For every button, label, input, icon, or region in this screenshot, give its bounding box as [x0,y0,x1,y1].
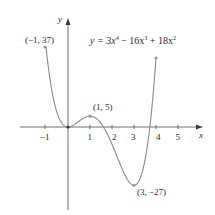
function-graph: y x −1 1 2 3 4 5 (−1, 37) (1, 5) (3, −27… [0,0,215,215]
tick-label-5: 5 [176,132,181,142]
x-axis-arrow-icon [196,125,203,130]
annotation-left-endpoint: (−1, 37) [25,35,54,45]
point-right-endpoint [154,56,157,59]
tick-label-3: 3 [131,132,136,142]
equation-label: y = 3x4 − 16x3 + 18x2 [89,35,176,46]
tick-label-1: 1 [88,132,93,142]
point-left-endpoint [43,45,46,48]
x-axis-label: x [198,130,203,140]
y-axis-arrow-icon [66,18,71,25]
point-local-max [88,115,91,118]
tick-label-4: 4 [156,132,161,142]
annotation-local-min: (3, −27) [137,187,166,197]
point-origin [66,125,69,128]
function-curve [46,47,156,185]
y-axis-label: y [57,14,62,24]
annotation-local-max: (1, 5) [93,102,113,112]
tick-label-neg1: −1 [40,132,50,142]
tick-label-2: 2 [112,132,117,142]
point-local-min [132,184,135,187]
